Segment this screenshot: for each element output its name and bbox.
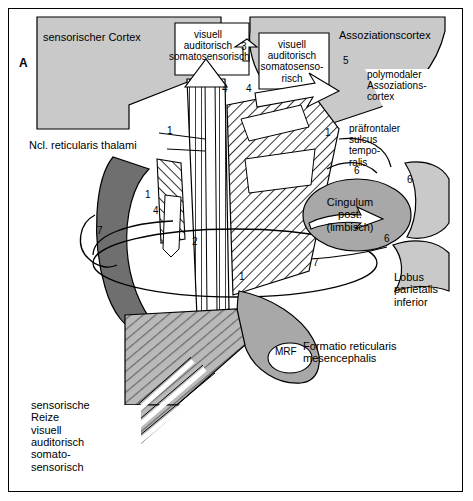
callout-1-mid: 1	[167, 125, 173, 136]
callout-5: 5	[343, 55, 349, 66]
callout-4a: 4	[246, 83, 252, 94]
callout-7-left: 7	[97, 225, 103, 236]
label-box-visuell-2: visuell auditorisch somatosenso- risch	[255, 39, 329, 84]
callout-4-left: 4	[153, 205, 159, 216]
left-leaf-core	[163, 195, 181, 257]
panel-letter: A	[19, 57, 28, 70]
label-mrf: MRF	[275, 346, 297, 357]
label-ncl-reticularis: Ncl. reticularis thalami	[29, 139, 137, 151]
callout-2: 2	[192, 236, 198, 247]
label-praefrontal-sulcus: präfrontaler sulcus tempo- ralis	[349, 123, 400, 168]
label-lobus-parietalis: Lobus parietalis inferior	[394, 271, 438, 308]
callout-6b: 6	[407, 174, 413, 185]
figure-frame: A sensorischer Cortex Assoziationscortex…	[8, 8, 463, 492]
label-assoziationscortex: Assoziationscortex	[339, 29, 431, 41]
callout-6c: 6	[384, 233, 390, 244]
callout-1-left: 1	[145, 189, 151, 200]
callout-3: 3	[241, 41, 247, 52]
figure-page: A sensorischer Cortex Assoziationscortex…	[0, 0, 473, 501]
label-polymodaler-cortex: polymodaler Assoziations- cortex	[367, 69, 426, 103]
ncl-reticularis-hook	[97, 157, 155, 331]
central-column-core	[205, 79, 217, 312]
callout-1-bottom: 1	[239, 271, 245, 282]
callout-6a: 6	[354, 165, 360, 176]
label-formatio-reticularis: Formatio reticularis mesencephalis	[303, 340, 397, 365]
callout-7-right: 7	[313, 257, 319, 268]
callout-1-top: 1	[325, 127, 331, 138]
label-box-visuell-1: visuell auditorisch somatosensorisch	[169, 29, 247, 63]
label-sensorischer-cortex: sensorischer Cortex	[43, 31, 141, 43]
label-input-reize: sensorische Reize visuell auditorisch so…	[31, 399, 90, 473]
callout-4b: 4	[222, 83, 228, 94]
label-cingulum: Cingulum post. (limbisch)	[311, 196, 389, 233]
input-bundle-upper	[125, 309, 245, 405]
